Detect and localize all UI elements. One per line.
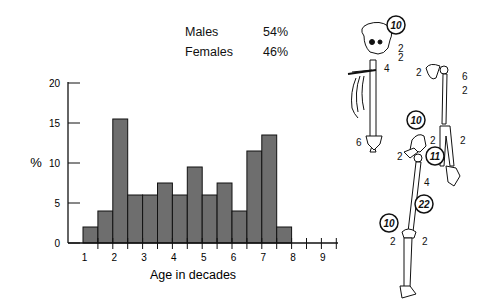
skull-eye (378, 40, 382, 44)
x-tick-label: 3 (141, 252, 147, 263)
x-axis-label: Age in decades (150, 268, 236, 282)
label-fibula: 2 (390, 236, 396, 247)
knee-shape (402, 229, 416, 238)
y-tick-label: 10 (49, 158, 61, 169)
x-tick-label: 8 (290, 252, 296, 263)
label-scapula: 2 (416, 67, 422, 78)
label-pubis: 2 (397, 151, 403, 162)
histogram-bar (232, 211, 247, 243)
x-tick-label: 4 (171, 252, 177, 263)
humeral-head (440, 66, 448, 74)
humerus-shape (442, 74, 447, 124)
label-cervical: 4 (384, 63, 390, 74)
label-ilium: 10 (410, 115, 422, 126)
label-femur-shaft: 4 (424, 177, 430, 188)
histogram-bar (158, 183, 173, 243)
y-tick-label: 0 (54, 238, 60, 249)
skeleton-diagram: 10 2 2 4 6 2 6 2 2 2 10 2 11 4 22 10 2 2 (340, 0, 488, 303)
label-radius: 2 (430, 135, 436, 146)
x-tick-label: 2 (112, 252, 118, 263)
sacrum-shape (366, 136, 382, 150)
tibia-shape (404, 238, 412, 288)
label-proximal-femur: 11 (430, 151, 441, 162)
foot-shape (400, 286, 416, 298)
hand-shape (446, 166, 460, 186)
label-sacrum: 6 (356, 137, 362, 148)
histogram-bar (83, 227, 98, 243)
histogram-bar (217, 183, 232, 243)
histogram-bar (172, 195, 187, 243)
y-tick-label: 15 (49, 118, 61, 129)
x-tick-label: 6 (231, 252, 237, 263)
femoral-head (414, 154, 422, 162)
y-axis-label: % (30, 155, 42, 170)
label-tibia-shaft: 2 (422, 236, 428, 247)
scapula-shape (426, 64, 440, 78)
x-tick-label: 9 (320, 252, 326, 263)
label-ulna: 2 (460, 135, 466, 146)
histogram-bar (98, 211, 113, 243)
label-humerus-shaft: 2 (462, 85, 468, 96)
y-tick-label: 20 (49, 78, 61, 89)
label-mandible-2: 2 (398, 52, 404, 63)
x-tick-label: 1 (82, 252, 88, 263)
label-proximal-humerus: 6 (462, 71, 468, 82)
histogram-bar (202, 195, 217, 243)
y-ticks: 05101520 (49, 78, 80, 249)
histogram-bars (83, 119, 292, 243)
skull-eye (370, 40, 375, 45)
histogram-bar (143, 195, 158, 243)
label-distal-femur: 22 (417, 199, 430, 210)
ribcage-shape (352, 70, 373, 118)
histogram-bar (187, 167, 202, 243)
histogram-bar (277, 227, 292, 243)
age-histogram: 05101520 123456789 % Age in decades (0, 0, 340, 303)
label-proximal-tibia: 10 (383, 218, 395, 229)
x-tick-label: 7 (261, 252, 267, 263)
histogram-bar (262, 135, 277, 243)
y-tick-label: 5 (54, 198, 60, 209)
x-tick-label: 5 (201, 252, 207, 263)
histogram-bar (128, 195, 143, 243)
histogram-bar (247, 151, 262, 243)
histogram-bar (113, 119, 128, 243)
label-skull: 10 (390, 20, 402, 31)
